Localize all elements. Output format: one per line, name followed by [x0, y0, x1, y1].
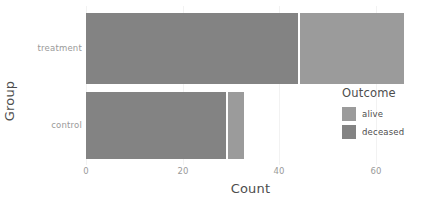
y-axis-tick-labels: treatment control [14, 0, 82, 170]
x-tick-label-0: 0 [66, 166, 106, 176]
legend-title: Outcome [342, 86, 438, 100]
x-axis-title: Count [86, 181, 415, 196]
bar-chart: Group treatment control 0 20 40 60 Count… [0, 0, 440, 202]
legend-label-alive: alive [362, 109, 383, 119]
legend-item-deceased: deceased [342, 123, 438, 140]
x-tick-label-40: 40 [259, 166, 299, 176]
bar-segment-control-alive [226, 92, 244, 159]
x-tick-label-60: 60 [356, 166, 396, 176]
legend-item-alive: alive [342, 105, 438, 122]
y-tick-label-treatment: treatment [20, 43, 82, 53]
bar-row-control [86, 92, 244, 159]
legend-label-deceased: deceased [362, 127, 404, 137]
bar-segment-treatment-deceased [86, 13, 298, 84]
legend-swatch-alive [342, 107, 356, 121]
bar-segment-control-deceased [86, 92, 226, 159]
bar-segment-treatment-alive [298, 13, 404, 84]
bar-row-treatment [86, 13, 404, 84]
legend: Outcome alive deceased [342, 86, 438, 141]
x-tick-label-20: 20 [163, 166, 203, 176]
y-tick-label-control: control [20, 120, 82, 130]
legend-swatch-deceased [342, 125, 356, 139]
